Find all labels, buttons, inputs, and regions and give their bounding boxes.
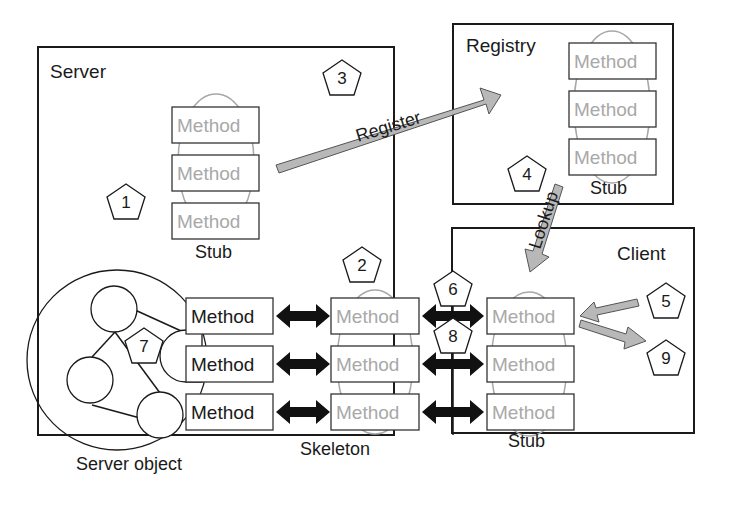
client-stub-label: Stub [508,431,545,451]
server-stub-method-3: Method [177,211,240,232]
server-stub-method-2: Method [177,163,240,184]
registry-stub-label: Stub [590,178,627,198]
svg-text:2: 2 [357,256,366,275]
svg-text:3: 3 [337,69,346,88]
registry-title: Registry [466,35,536,56]
registry-stub: Method Method Method Stub [569,31,656,198]
registry-stub-method-2: Method [574,99,637,120]
svg-text:7: 7 [139,337,148,356]
client-title: Client [617,243,666,264]
server-object-label: Server object [76,454,182,474]
server-object-method-2: Method [191,354,254,375]
skeleton-method-2: Method [336,354,399,375]
server-object-methods: Method Method Method [186,298,273,430]
registry-stub-method-1: Method [574,51,637,72]
skeleton-method-3: Method [336,402,399,423]
svg-text:1: 1 [121,193,130,212]
server-stub-label: Stub [195,242,232,262]
svg-text:5: 5 [661,292,670,311]
client-stub-method-2: Method [492,354,555,375]
svg-text:6: 6 [448,280,457,299]
server-object-method-3: Method [191,402,254,423]
client-stub: Method Method Method Stub [487,292,574,451]
server-title: Server [50,61,107,82]
svg-text:8: 8 [448,327,457,346]
svg-text:9: 9 [661,349,670,368]
skeleton-label: Skeleton [300,439,370,459]
svg-text:4: 4 [522,165,531,184]
server-stub-method-1: Method [177,115,240,136]
server-object-method-1: Method [191,306,254,327]
client-stub-method-1: Method [492,306,555,327]
registry-stub-method-3: Method [574,147,637,168]
rmi-architecture-diagram: Server Registry Client Method Method Met… [0,0,729,511]
client-stub-method-3: Method [492,402,555,423]
skeleton-method-1: Method [336,306,399,327]
server-stub: Method Method Method Stub [172,94,259,262]
